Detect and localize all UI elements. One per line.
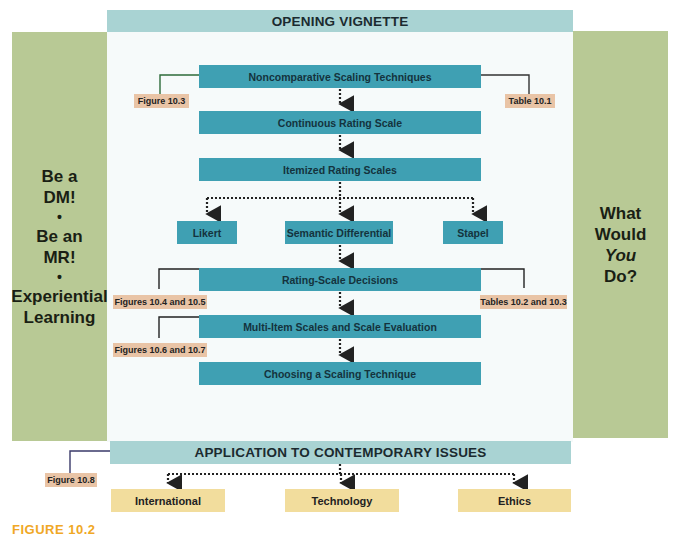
- ref-figures-10-6-10-7: Figures 10.6 and 10.7: [113, 343, 207, 357]
- ref-figure-10-8: Figure 10.8: [45, 473, 97, 487]
- right-panel-line: What: [595, 203, 647, 224]
- box-semantic-differential: Semantic Differential: [285, 221, 393, 244]
- box-stapel: Stapel: [443, 221, 503, 244]
- ref-figures-10-4-10-5: Figures 10.4 and 10.5: [113, 295, 207, 309]
- left-panel-line: Experiential: [11, 286, 107, 307]
- issue-international: International: [111, 489, 225, 512]
- leader-figs-10-6: [159, 317, 199, 338]
- box-rating-scale-decisions: Rating-Scale Decisions: [199, 268, 481, 291]
- ref-tables-10-2-10-3: Tables 10.2 and 10.3: [480, 295, 567, 309]
- left-side-panel: Be a DM! • Be an MR! • Experiential Lear…: [12, 32, 107, 441]
- box-noncomparative: Noncomparative Scaling Techniques: [199, 65, 481, 88]
- box-continuous-rating: Continuous Rating Scale: [199, 111, 481, 134]
- right-panel-line: Do?: [595, 266, 647, 287]
- figure-caption: FIGURE 10.2: [12, 522, 96, 537]
- leader-table-10-1: [481, 75, 529, 94]
- left-panel-line: Learning: [11, 307, 107, 328]
- box-likert: Likert: [177, 221, 237, 244]
- leader-fig-10-8: [70, 451, 110, 473]
- box-itemized-rating: Itemized Rating Scales: [199, 158, 481, 181]
- ref-figure-10-3: Figure 10.3: [134, 94, 189, 108]
- issue-ethics: Ethics: [458, 489, 571, 512]
- opening-vignette-banner: OPENING VIGNETTE: [107, 10, 573, 32]
- ref-table-10-1: Table 10.1: [505, 94, 555, 108]
- left-panel-line: Be a: [11, 166, 107, 187]
- box-multi-item-scales: Multi-Item Scales and Scale Evaluation: [199, 315, 481, 338]
- application-banner: APPLICATION TO CONTEMPORARY ISSUES: [110, 441, 571, 464]
- bullet-separator: •: [11, 208, 107, 226]
- left-panel-line: Be an: [11, 226, 107, 247]
- right-side-panel: What Would You Do?: [573, 31, 668, 438]
- leader-figs-10-4: [159, 269, 199, 289]
- left-panel-line: DM!: [11, 187, 107, 208]
- right-panel-line: You: [595, 245, 647, 266]
- issue-technology: Technology: [285, 489, 399, 512]
- bullet-separator: •: [11, 268, 107, 286]
- leader-tables-10-2: [481, 269, 524, 288]
- leader-fig-10-3: [160, 75, 199, 95]
- left-panel-line: MR!: [11, 247, 107, 268]
- right-panel-line: Would: [595, 224, 647, 245]
- box-choosing-technique: Choosing a Scaling Technique: [199, 362, 481, 385]
